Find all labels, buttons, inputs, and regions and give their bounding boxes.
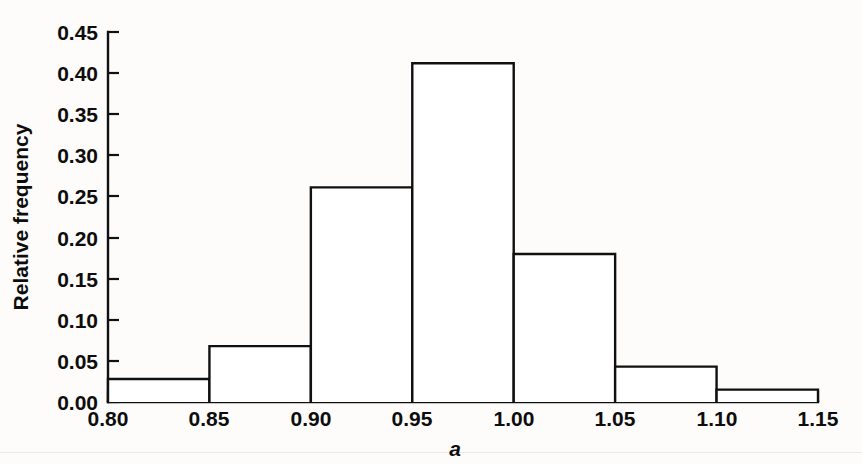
- histogram-bar: [412, 63, 513, 402]
- histogram-bar: [209, 346, 310, 402]
- y-tick-label: 0.25: [57, 185, 98, 208]
- histogram-bar: [108, 379, 209, 402]
- x-tick-label: 0.90: [291, 407, 332, 430]
- y-tick-label: 0.45: [57, 21, 98, 44]
- y-tick-label: 0.35: [57, 103, 98, 126]
- y-axis-title: Relative frequency: [9, 123, 32, 310]
- x-tick-label: 0.95: [392, 407, 433, 430]
- y-tick-label: 0.30: [57, 144, 98, 167]
- y-tick-label: 0.05: [57, 350, 98, 373]
- x-tick-label: 1.15: [798, 407, 839, 430]
- y-tick-label: 0.10: [57, 309, 98, 332]
- x-tick-label: 0.85: [189, 407, 230, 430]
- y-tick-marks: [108, 32, 119, 402]
- y-tick-labels: 0.45 0.40 0.35 0.30 0.25 0.20 0.15 0.10 …: [57, 21, 98, 414]
- x-tick-labels: 0.80 0.85 0.90 0.95 1.00 1.05 1.10 1.15: [88, 407, 839, 430]
- histogram-figure: 0.45 0.40 0.35 0.30 0.25 0.20 0.15 0.10 …: [0, 0, 862, 464]
- x-axis-title: a: [449, 437, 461, 460]
- histogram-bar: [615, 367, 716, 402]
- y-tick-label: 0.40: [57, 62, 98, 85]
- histogram-bars: [108, 63, 818, 402]
- y-tick-label: 0.20: [57, 227, 98, 250]
- histogram-bar: [717, 390, 818, 402]
- histogram-bar: [311, 187, 412, 402]
- histogram-bar: [514, 254, 615, 402]
- scan-artifact-line: [0, 452, 862, 453]
- histogram-plot: 0.45 0.40 0.35 0.30 0.25 0.20 0.15 0.10 …: [0, 0, 862, 464]
- x-tick-label: 1.10: [697, 407, 738, 430]
- x-tick-label: 0.80: [88, 407, 129, 430]
- y-tick-label: 0.15: [57, 268, 98, 291]
- x-tick-label: 1.00: [494, 407, 535, 430]
- x-tick-label: 1.05: [595, 407, 636, 430]
